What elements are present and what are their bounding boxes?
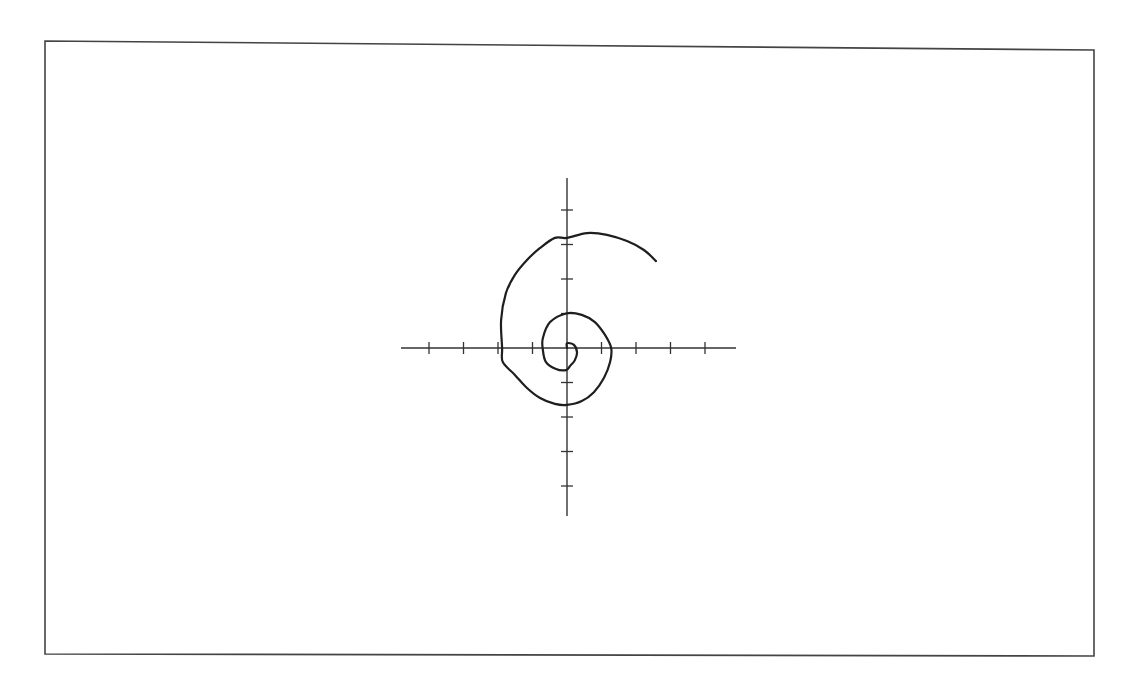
spiral-curve <box>501 233 656 405</box>
spiral-plot <box>0 0 1137 692</box>
axes <box>401 178 736 516</box>
